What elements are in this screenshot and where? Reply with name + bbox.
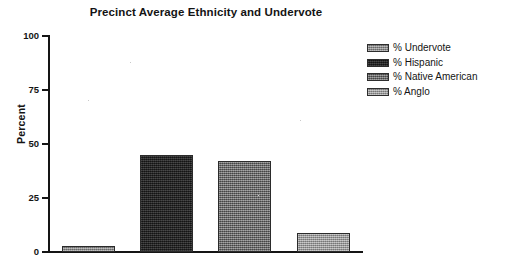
y-tick-label-100: 100 [9,31,39,41]
legend-item-0[interactable]: % Undervote [367,41,509,56]
y-tick-label-0: 0 [9,247,39,257]
y-tick-label-50: 50 [9,139,39,149]
scan-speckle [88,100,89,101]
scan-speckle [300,120,301,121]
legend-swatch-icon [367,88,389,96]
bar-1[interactable] [140,155,193,252]
y-tick-label-75: 75 [9,85,39,95]
legend-item-3[interactable]: % Anglo [367,85,509,100]
legend-item-2[interactable]: % Native American [367,70,509,85]
plot-area [48,36,363,252]
chart-legend: % Undervote% Hispanic% Native American% … [367,41,509,99]
legend-label: % Native American [393,72,477,82]
chart-figure: Precinct Average Ethnicity and Undervote… [0,0,509,270]
bar-2[interactable] [218,161,271,252]
scan-speckle [130,62,131,63]
y-axis-ticks: 0255075100 [0,0,48,270]
legend-swatch-icon [367,73,389,81]
scan-speckle [258,195,259,196]
bar-0[interactable] [62,246,115,252]
legend-swatch-icon [367,44,389,52]
legend-swatch-icon [367,59,389,67]
legend-label: % Anglo [393,87,430,97]
bar-3[interactable] [297,233,350,252]
chart-title: Precinct Average Ethnicity and Undervote [48,6,364,18]
y-tick-label-25: 25 [9,193,39,203]
legend-label: % Undervote [393,43,451,53]
legend-label: % Hispanic [393,58,443,68]
legend-item-1[interactable]: % Hispanic [367,56,509,71]
